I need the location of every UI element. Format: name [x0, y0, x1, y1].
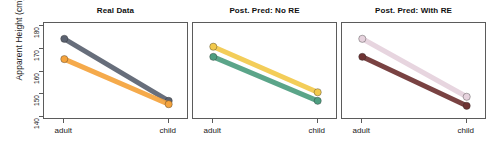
series-canvas: [44, 23, 189, 120]
series-line: [362, 57, 466, 106]
x-axis-tick: [63, 119, 64, 123]
data-point: [165, 101, 172, 108]
series-line: [64, 39, 168, 101]
chart-panel-1: Real Dataadultchild: [43, 0, 188, 149]
x-axis-tick: [466, 119, 467, 123]
chart-panel-2: Post. Pred: No REadultchild: [192, 0, 337, 149]
x-axis-tick-label: adult: [55, 126, 72, 135]
x-axis-tick-label: child: [457, 126, 473, 135]
x-axis-tick: [168, 119, 169, 123]
data-point: [61, 55, 68, 62]
data-point: [314, 97, 321, 104]
series-canvas: [342, 23, 487, 120]
panel-title: Post. Pred: With RE: [341, 6, 486, 15]
y-axis-tick-label: 160: [33, 70, 40, 86]
data-point: [314, 89, 321, 96]
y-axis-tick-label: 150: [33, 93, 40, 109]
plot-area: [341, 22, 486, 119]
y-axis-tick-label: 170: [33, 47, 40, 63]
series-canvas: [193, 23, 338, 120]
series-line: [362, 39, 466, 97]
x-axis-tick-label: child: [159, 126, 175, 135]
series-line: [64, 59, 168, 104]
panel-title: Real Data: [43, 6, 188, 15]
x-axis-tick: [317, 119, 318, 123]
data-point: [463, 102, 470, 109]
plot-area: [43, 22, 188, 119]
data-point: [210, 43, 217, 50]
x-axis-tick: [212, 119, 213, 123]
figure-root: Apparent Height (cm) 140150160170180 Rea…: [0, 0, 493, 149]
data-point: [61, 35, 68, 42]
series-line: [213, 47, 317, 93]
plot-area: [192, 22, 337, 119]
x-axis-tick-label: child: [308, 126, 324, 135]
data-point: [463, 93, 470, 100]
x-axis-tick: [361, 119, 362, 123]
panel-title: Post. Pred: No RE: [192, 6, 337, 15]
y-axis-tick-label: 140: [33, 115, 40, 131]
y-axis-title: Apparent Height (cm): [14, 0, 24, 94]
y-axis-tick-label: 180: [33, 25, 40, 41]
chart-panel-3: Post. Pred: With REadultchild: [341, 0, 486, 149]
data-point: [359, 35, 366, 42]
series-line: [213, 57, 317, 101]
x-axis-tick-label: adult: [353, 126, 370, 135]
data-point: [210, 53, 217, 60]
x-axis-tick-label: adult: [204, 126, 221, 135]
data-point: [359, 53, 366, 60]
